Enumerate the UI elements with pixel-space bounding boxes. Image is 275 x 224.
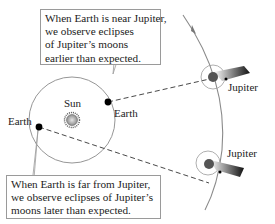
callout-near: When Earth is near Jupiter, we observe e…	[40, 9, 161, 65]
callout-far-line-3: moons later than expected.	[11, 204, 156, 217]
earth-far-dot	[36, 124, 43, 131]
callout-far: When Earth is far from Jupiter, we obser…	[6, 175, 161, 219]
callout-near-line-1: When Earth is near Jupiter,	[45, 12, 156, 25]
callout-far-line-1: When Earth is far from Jupiter,	[11, 178, 156, 191]
earth-near-label: Earth	[114, 107, 138, 119]
earth-near-dot	[105, 99, 112, 106]
callout-near-line-4: earlier than expected.	[45, 52, 156, 65]
sightline-near	[108, 78, 214, 102]
sun-icon	[65, 113, 80, 128]
jupiter-bottom-label: Jupiter	[227, 147, 257, 159]
orbit-direction-arrow-icon	[191, 25, 196, 34]
callout-near-line-2: we observe eclipses	[45, 25, 156, 38]
jupiter-top-label: Jupiter	[228, 81, 258, 93]
callout-far-line-2: we observe eclipses of Jupiter’s	[11, 191, 156, 204]
callout-near-line-3: of Jupiter’s moons	[45, 38, 156, 51]
earth-far-label: Earth	[8, 115, 32, 127]
sun-label: Sun	[64, 97, 81, 109]
